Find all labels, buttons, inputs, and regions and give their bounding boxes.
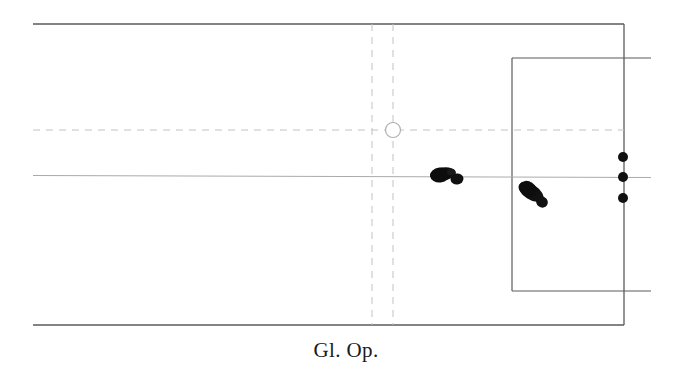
dot-upper: [618, 152, 628, 162]
horizontal-axis-line: [33, 176, 651, 178]
blob-right-group: [515, 178, 550, 210]
blob-left-group: [429, 166, 464, 186]
dot-lower: [618, 193, 628, 203]
outer-frame: [33, 24, 624, 325]
marker-dot-column: [618, 152, 628, 203]
figure-container: Gl. Op.: [0, 0, 692, 388]
blob-left-speck: [447, 169, 455, 175]
dot-middle: [618, 172, 628, 182]
reference-circle: [386, 123, 401, 138]
inner-rectangle: [512, 58, 651, 291]
plan-drawing: [0, 0, 692, 388]
